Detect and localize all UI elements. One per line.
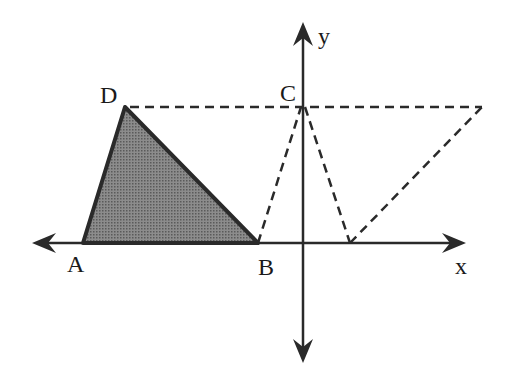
label-point-c: C: [280, 80, 296, 106]
label-point-d: D: [100, 82, 117, 108]
label-axis-x: x: [455, 253, 467, 279]
shaded-triangle-abd: [83, 107, 258, 243]
coordinate-diagram: D C A B y x: [0, 0, 512, 388]
dashed-line-x-to-right: [350, 107, 482, 243]
y-axis: [293, 22, 313, 363]
label-axis-y: y: [318, 23, 330, 49]
label-point-b: B: [258, 254, 274, 280]
dashed-line-bc: [258, 107, 301, 243]
dashed-line-c-to-x: [305, 107, 350, 243]
label-point-a: A: [67, 251, 85, 277]
